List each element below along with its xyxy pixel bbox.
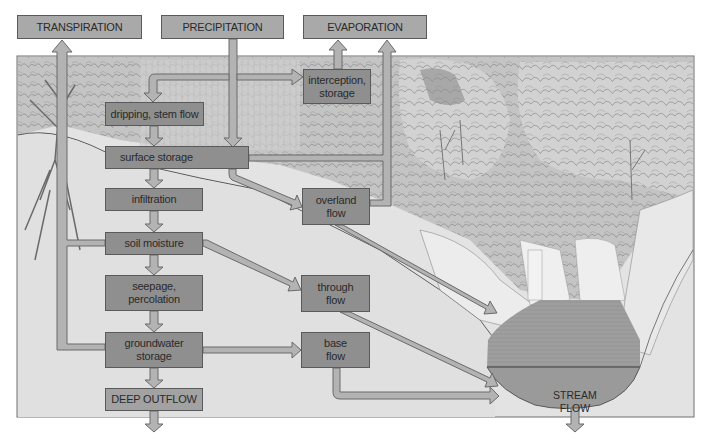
node-label: STREAM FLOW xyxy=(553,389,597,414)
node-dripping-stem-flow: dripping, stem flow xyxy=(105,102,204,126)
arrow-infiltration-to-soil-moisture xyxy=(145,211,163,232)
node-label: groundwater storage xyxy=(125,337,184,363)
node-groundwater-storage: groundwater storage xyxy=(105,332,203,368)
arrow-dripping-to-surface-storage xyxy=(145,126,163,146)
node-label: interception, storage xyxy=(308,74,365,100)
node-evaporation: EVAPORATION xyxy=(303,15,427,39)
node-transpiration: TRANSPIRATION xyxy=(17,15,142,39)
node-label: EVAPORATION xyxy=(327,21,403,34)
node-label: dripping, stem flow xyxy=(111,108,199,121)
arrow-surface-storage-to-overland-flow xyxy=(229,169,302,210)
node-deep-outflow: DEEP OUTFLOW xyxy=(105,388,203,411)
node-label: soil moisture xyxy=(124,237,183,250)
node-through-flow: through flow xyxy=(301,275,370,312)
arrow-interception-to-evaporation xyxy=(329,40,347,69)
arrow-precipitation-to-dripping xyxy=(144,74,229,102)
node-label: DEEP OUTFLOW xyxy=(111,393,196,406)
node-label: infiltration xyxy=(132,193,177,206)
hydrologic-cycle-diagram: TRANSPIRATION PRECIPITATION EVAPORATION … xyxy=(0,0,706,446)
arrow-groundwater-to-base-flow xyxy=(203,342,301,358)
arrow-surface-storage-to-infiltration xyxy=(145,169,163,188)
arrow-to-evaporation xyxy=(249,40,396,206)
node-base-flow: base flow xyxy=(301,332,370,368)
node-label: surface storage xyxy=(120,151,193,164)
node-soil-moisture: soil moisture xyxy=(105,232,203,255)
node-label: TRANSPIRATION xyxy=(37,21,123,34)
arrow-deep-outflow-out xyxy=(145,411,163,432)
arrow-soil-moisture-to-seepage xyxy=(145,255,163,275)
node-label: PRECIPITATION xyxy=(182,21,262,34)
arrow-groundwater-to-deep-outflow xyxy=(145,368,163,388)
node-stream-flow: STREAM FLOW xyxy=(535,376,615,415)
arrow-soil-moisture-to-through-flow xyxy=(203,240,301,291)
arrow-seepage-to-groundwater xyxy=(145,311,163,332)
node-seepage-percolation: seepage, percolation xyxy=(105,275,203,311)
node-label: through flow xyxy=(318,281,354,307)
node-surface-storage: surface storage xyxy=(105,146,249,169)
arrow-to-transpiration xyxy=(52,40,105,350)
node-precipitation: PRECIPITATION xyxy=(161,15,284,39)
node-label: base flow xyxy=(324,337,347,363)
arrow-precipitation-to-interception xyxy=(237,69,303,85)
node-label: seepage, percolation xyxy=(128,280,180,306)
node-label: overland flow xyxy=(316,194,357,220)
arrow-precipitation-to-surface-storage xyxy=(224,39,242,147)
node-interception-storage: interception, storage xyxy=(303,69,371,104)
node-infiltration: infiltration xyxy=(105,188,203,211)
node-overland-flow: overland flow xyxy=(302,188,370,225)
